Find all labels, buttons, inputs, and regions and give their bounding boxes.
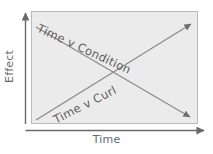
effect-vs-time-diagram: Time v Condition Time v Curl Time Effect <box>0 0 213 154</box>
x-axis-label: Time <box>0 133 213 146</box>
diagram-lines-layer <box>0 0 213 154</box>
y-axis-label: Effect <box>3 45 16 89</box>
